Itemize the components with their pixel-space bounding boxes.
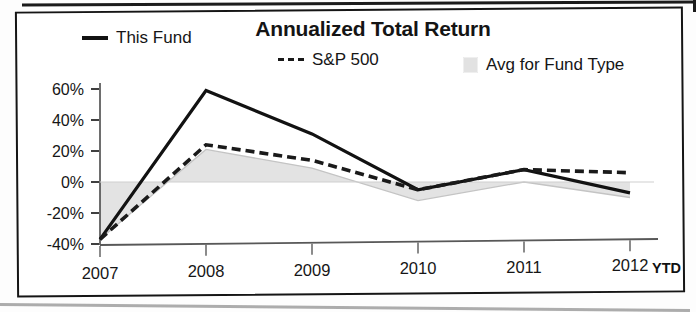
svg-text:YTD: YTD xyxy=(652,260,681,276)
scanned-page-background: Annualized Total Return This Fund S&P 50… xyxy=(0,0,696,312)
svg-text:2009: 2009 xyxy=(294,261,331,279)
plot-area: 60%40%20%0%-20%-40% 20072008200920102011… xyxy=(18,11,686,297)
svg-text:2008: 2008 xyxy=(188,262,225,280)
line-chart-svg: 60%40%20%0%-20%-40% 20072008200920102011… xyxy=(18,11,686,297)
svg-text:2010: 2010 xyxy=(400,259,437,277)
chart-inner: Annualized Total Return This Fund S&P 50… xyxy=(18,11,682,293)
svg-text:60%: 60% xyxy=(52,81,84,98)
svg-text:0%: 0% xyxy=(61,174,84,191)
y-axis-tick-labels: 60%40%20%0%-20%-40% xyxy=(47,81,84,253)
svg-text:40%: 40% xyxy=(52,112,84,129)
svg-text:2012: 2012 xyxy=(612,256,649,274)
svg-text:2007: 2007 xyxy=(82,264,119,282)
chart-frame: Annualized Total Return This Fund S&P 50… xyxy=(15,6,685,297)
svg-text:20%: 20% xyxy=(52,143,84,160)
page-edge-top xyxy=(22,1,694,7)
ytd-annotation: YTD xyxy=(652,260,681,276)
svg-text:-20%: -20% xyxy=(47,205,84,222)
svg-text:-40%: -40% xyxy=(47,236,84,253)
page-edge-bottom xyxy=(0,303,690,312)
x-axis-tick-labels: 200720082009201020112012 xyxy=(82,256,649,282)
svg-text:2011: 2011 xyxy=(506,258,541,276)
series-lines-group xyxy=(100,91,630,240)
